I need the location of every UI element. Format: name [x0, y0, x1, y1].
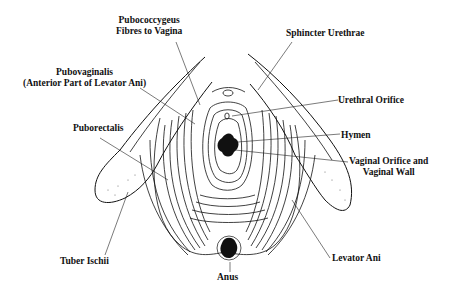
vaginal-orifice-shape — [218, 134, 239, 157]
label-line: (Anterior Part of Levator Ani) — [23, 78, 146, 89]
label-line: Fibres to Vagina — [116, 26, 182, 37]
label-sphincter-urethrae: Sphincter Urethrae — [286, 28, 365, 39]
label-hymen: Hymen — [341, 130, 371, 141]
label-puborectalis: Puborectalis — [73, 123, 124, 134]
label-pubovaginalis: Pubovaginalis (Anterior Part of Levator … — [23, 67, 146, 89]
label-tuber-ischii: Tuber Ischii — [60, 256, 109, 267]
label-levator-ani: Levator Ani — [332, 253, 381, 264]
anus-shape — [220, 238, 237, 258]
label-urethral-orifice: Urethral Orifice — [338, 95, 404, 106]
label-pubococcygeus: Pubococcygeus Fibres to Vagina — [116, 15, 182, 37]
label-anus: Anus — [217, 272, 238, 283]
label-line: Pubovaginalis — [23, 67, 146, 78]
label-line: Pubococcygeus — [116, 15, 182, 26]
label-line: Vaginal Orifice and — [349, 156, 428, 167]
pelvic-floor-diagram: Pubococcygeus Fibres to Vagina Pubovagin… — [0, 0, 460, 285]
label-line: Vaginal Wall — [349, 167, 428, 178]
label-vaginal-orifice: Vaginal Orifice and Vaginal Wall — [349, 156, 428, 178]
diagram-illustration — [0, 0, 460, 285]
